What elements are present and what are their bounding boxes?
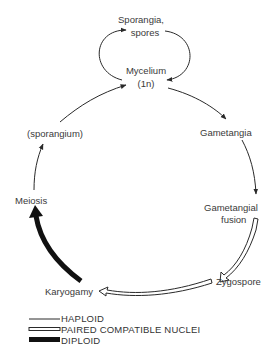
node-zygospore: Zygospore (216, 276, 261, 287)
arrow-meiosis-sporangium (34, 144, 43, 190)
arrow-karyogamy-meiosis (36, 216, 81, 281)
node-mycelium: Mycelium (126, 65, 166, 76)
arrow-sporangium-mycelium (60, 85, 126, 122)
node-gametangia: Gametangia (200, 127, 252, 138)
node-meiosis: Meiosis (15, 195, 47, 206)
legend-diploid: DIPLOID (61, 335, 100, 346)
legend-diploid-swatch (29, 337, 60, 342)
legend-paired: PAIRED COMPATIBLE NUCLEI (61, 324, 200, 335)
legend-haploid: HAPLOID (61, 313, 104, 324)
node-mycelium-ploidy: (1n) (138, 78, 155, 89)
arrow-zygospore-karyogamy (99, 279, 212, 296)
legend-paired-swatch (29, 328, 60, 331)
arrow-mycelium-gametangia (168, 88, 226, 119)
node-gametangial: Gametangial (204, 202, 258, 213)
node-karyogamy: Karyogamy (45, 286, 93, 297)
arrow-fusion-zygospore (220, 218, 258, 282)
node-sporangium: (sporangium) (27, 128, 83, 139)
arrow-gametangia-fusion (242, 140, 256, 194)
node-spores: spores (131, 27, 160, 38)
asexual-arrow-left (99, 30, 126, 80)
life-cycle-arrows (0, 0, 278, 361)
asexual-arrow-right (165, 31, 190, 80)
node-fusion: fusion (221, 214, 246, 225)
node-sporangia: Sporangia, (118, 14, 164, 25)
